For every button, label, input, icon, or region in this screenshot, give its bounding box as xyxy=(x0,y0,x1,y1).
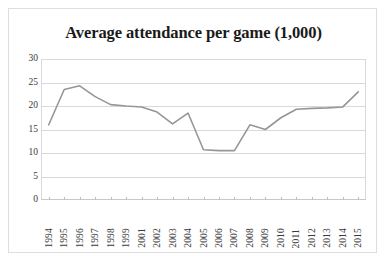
x-tick-label-2003: 2003 xyxy=(168,228,178,248)
x-tickmark xyxy=(281,197,282,200)
x-tick-label-2008: 2008 xyxy=(245,228,255,248)
x-tick-label-2015: 2015 xyxy=(353,228,363,248)
y-tick-label-10: 10 xyxy=(12,148,38,158)
plot-wrapper: 051015202530 199419951996199719981999200… xyxy=(9,9,378,254)
x-tickmark xyxy=(64,197,65,200)
x-tickmark xyxy=(234,197,235,200)
x-tickmark xyxy=(265,197,266,200)
x-tick-label-2013: 2013 xyxy=(322,228,332,248)
y-tick-label-15: 15 xyxy=(12,125,38,135)
x-tickmark xyxy=(80,197,81,200)
x-tick-label-2002: 2002 xyxy=(152,228,162,248)
x-tick-label-1995: 1995 xyxy=(59,228,69,248)
y-tick-label-0: 0 xyxy=(12,195,38,205)
x-tickmark xyxy=(219,197,220,200)
x-tickmark xyxy=(343,197,344,200)
x-tickmark xyxy=(49,197,50,200)
x-tick-label-1999: 1999 xyxy=(121,228,131,248)
plot-area xyxy=(41,59,366,200)
x-tickmark xyxy=(327,197,328,200)
x-tick-label-2006: 2006 xyxy=(214,228,224,248)
x-tickmark xyxy=(142,197,143,200)
x-tickmark xyxy=(204,197,205,200)
x-tick-label-2005: 2005 xyxy=(199,228,209,248)
x-tickmark xyxy=(250,197,251,200)
x-tickmark xyxy=(157,197,158,200)
chart-container: Average attendance per game (1,000) 0510… xyxy=(8,8,377,253)
x-tickmark xyxy=(188,197,189,200)
x-tickmark xyxy=(111,197,112,200)
y-axis-tick-labels: 051015202530 xyxy=(9,59,38,200)
x-tickmark xyxy=(173,197,174,200)
x-tick-label-2011: 2011 xyxy=(291,229,301,248)
data-series-line xyxy=(41,59,366,200)
x-tick-label-2014: 2014 xyxy=(338,228,348,248)
x-tick-label-1994: 1994 xyxy=(44,228,54,248)
x-tick-label-2009: 2009 xyxy=(260,228,270,248)
x-tick-label-1996: 1996 xyxy=(75,228,85,248)
x-tickmark xyxy=(126,197,127,200)
y-tick-label-5: 5 xyxy=(12,172,38,182)
x-tick-label-2007: 2007 xyxy=(229,228,239,248)
x-tick-label-1997: 1997 xyxy=(90,228,100,248)
x-tick-label-1998: 1998 xyxy=(106,228,116,248)
x-tick-label-2004: 2004 xyxy=(183,228,193,248)
x-axis-tick-labels: 1994199519961997199819992001200220032004… xyxy=(41,202,366,248)
x-tick-label-2010: 2010 xyxy=(276,228,286,248)
y-tick-label-25: 25 xyxy=(12,78,38,88)
x-tickmark xyxy=(296,197,297,200)
y-tick-label-20: 20 xyxy=(12,101,38,111)
x-tickmark xyxy=(95,197,96,200)
x-tickmark xyxy=(312,197,313,200)
x-tick-label-2001: 2001 xyxy=(137,228,147,248)
y-tick-label-30: 30 xyxy=(12,54,38,64)
x-tick-label-2012: 2012 xyxy=(307,228,317,248)
x-tickmark xyxy=(358,197,359,200)
